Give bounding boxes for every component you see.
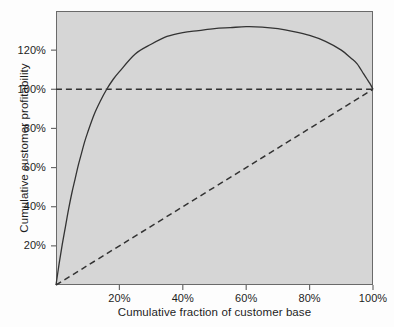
y-tick-label: 80% (4, 122, 46, 135)
y-tick-label: 20% (4, 239, 46, 252)
y-tick-label: 120% (4, 44, 46, 57)
x-tick-label: 100% (349, 292, 394, 305)
chart-figure: Cumulative customer profitability 20%40%… (0, 0, 394, 327)
x-tick-label: 20% (95, 292, 143, 305)
plot-area (56, 11, 373, 285)
x-axis-title: Cumulative fraction of customer base (56, 306, 373, 318)
x-tick-label: 80% (286, 292, 334, 305)
y-tick-label: 40% (4, 200, 46, 213)
y-tick-label: 60% (4, 161, 46, 174)
y-tick-label: 100% (4, 83, 46, 96)
x-tick-label: 40% (159, 292, 207, 305)
x-tick-label: 60% (222, 292, 270, 305)
x-axis-ticks (119, 285, 373, 290)
